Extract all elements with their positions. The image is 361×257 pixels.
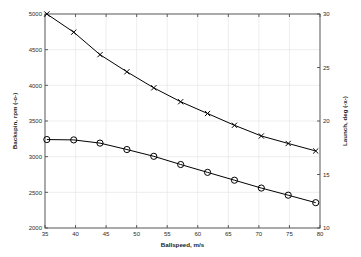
x-axis-label: Ballspeed, m/s — [161, 241, 205, 248]
chart-figure: 3540455055606570758020002500300035004000… — [0, 0, 361, 257]
chart-plot-area: 3540455055606570758020002500300035004000… — [0, 0, 361, 257]
y-tick-label-left: 5000 — [29, 11, 43, 17]
x-tick-label: 45 — [103, 231, 110, 237]
y-tick-label-left: 4000 — [29, 83, 43, 89]
figure-background — [0, 0, 361, 257]
y-tick-label-right: 30 — [323, 11, 330, 17]
x-tick-label: 35 — [42, 231, 49, 237]
y-axis-label-right: Launch, deg (-x-) — [341, 96, 348, 146]
x-tick-label: 80 — [317, 231, 324, 237]
y-tick-label-right: 15 — [323, 172, 330, 178]
y-axis-label-left: Backspin, rpm (-o-) — [11, 93, 18, 149]
y-tick-label-left: 2500 — [29, 190, 43, 196]
x-tick-label: 50 — [133, 231, 140, 237]
y-tick-label-right: 25 — [323, 65, 330, 71]
x-tick-label: 65 — [225, 231, 232, 237]
y-tick-label-left: 3000 — [29, 154, 43, 160]
x-tick-label: 40 — [72, 231, 79, 237]
y-tick-label-left: 2000 — [29, 225, 43, 231]
y-tick-label-left: 4500 — [29, 47, 43, 53]
y-tick-label-right: 20 — [323, 118, 330, 124]
y-tick-label-right: 10 — [323, 225, 330, 231]
y-tick-label-left: 3500 — [29, 118, 43, 124]
x-tick-label: 55 — [164, 231, 171, 237]
x-tick-label: 60 — [194, 231, 201, 237]
x-tick-label: 70 — [256, 231, 263, 237]
x-tick-label: 75 — [286, 231, 293, 237]
